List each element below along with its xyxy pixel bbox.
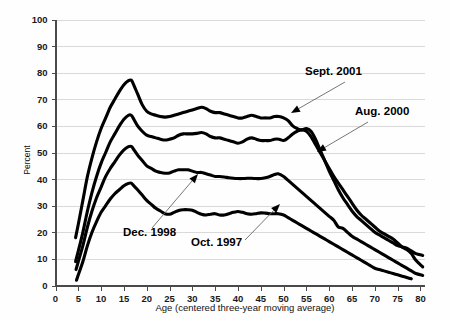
line-chart: 0102030405060708090100 05101520253035404… xyxy=(0,0,450,321)
y-tick-label-0: 0 xyxy=(42,280,47,291)
x-tick-label-65: 65 xyxy=(347,293,358,304)
x-axis-title: Age (centered three-year moving average) xyxy=(155,302,334,313)
x-tick-label-20: 20 xyxy=(141,293,152,304)
y-tick-label-90: 90 xyxy=(37,41,48,52)
annotation-leader-dec-1998 xyxy=(152,181,192,228)
annotation-arrowhead-dec-1998 xyxy=(189,174,198,183)
x-tick-label-70: 70 xyxy=(370,293,381,304)
y-axis-title: Percent xyxy=(22,145,32,175)
x-tick-label-5: 5 xyxy=(76,293,82,304)
y-tick-label-10: 10 xyxy=(37,253,48,264)
series-annotation-dec-1998: Dec. 1998 xyxy=(123,226,177,238)
x-tick-label-15: 15 xyxy=(119,293,130,304)
x-tick-label-75: 75 xyxy=(392,293,403,304)
annotation-arrowhead-sept-2001 xyxy=(291,105,301,113)
series-annotation-sept-2001: Sept. 2001 xyxy=(305,65,362,77)
y-tick-labels: 0102030405060708090100 xyxy=(32,14,48,291)
annotation-leader-aug-2000 xyxy=(325,122,368,147)
x-tick-label-80: 80 xyxy=(415,293,426,304)
y-tick-label-40: 40 xyxy=(37,174,48,185)
y-tick-label-70: 70 xyxy=(37,94,48,105)
y-tick-label-100: 100 xyxy=(32,14,48,25)
axes-group xyxy=(52,20,426,291)
y-tick-label-60: 60 xyxy=(37,120,48,131)
y-tick-label-30: 30 xyxy=(37,200,48,211)
chart-page: 0102030405060708090100 05101520253035404… xyxy=(0,0,450,321)
series-annotation-oct-1997: Oct. 1997 xyxy=(191,236,242,248)
series-annotation-aug-2000: Aug. 2000 xyxy=(355,105,409,117)
y-tick-label-80: 80 xyxy=(37,67,48,78)
x-tick-label-10: 10 xyxy=(96,293,107,304)
annotation-leader-sept-2001 xyxy=(299,82,345,109)
data-curve-aug-2000 xyxy=(76,115,423,267)
y-tick-label-50: 50 xyxy=(37,147,48,158)
x-tick-label-0: 0 xyxy=(53,293,58,304)
data-curve-dec-1998 xyxy=(76,146,423,275)
y-tick-label-20: 20 xyxy=(37,227,48,238)
